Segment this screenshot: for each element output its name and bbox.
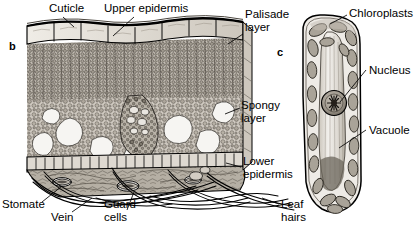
label-chloroplasts: Chloroplasts (349, 7, 413, 20)
label-vein: Vein (51, 211, 73, 224)
label-upper-epidermis: Upper epidermis (104, 2, 188, 15)
label-cuticle: Cuticle (49, 2, 84, 15)
palisade-layer-region (27, 38, 243, 102)
label-vacuole: Vacuole (369, 124, 410, 137)
figure-root: Cuticle Upper epidermis Palisade layer S… (0, 0, 420, 227)
palisade-cell-detail (303, 15, 361, 214)
label-lower-epidermis: Lower epidermis (243, 155, 293, 180)
label-leaf-hairs: Leaf hairs (281, 198, 306, 223)
label-palisade-layer: Palisade layer (245, 8, 289, 33)
leaf-block-right-face (243, 22, 252, 170)
nucleus-region (322, 91, 347, 116)
label-spongy-layer: Spongy layer (241, 99, 280, 124)
label-nucleus: Nucleus (369, 64, 411, 77)
panel-letter-c: c (277, 46, 283, 58)
label-stomate: Stomate (2, 198, 45, 211)
label-guard-cells: Guard cells (104, 198, 136, 223)
leaf-anatomy-illustration (0, 0, 420, 227)
panel-letter-b: b (9, 40, 16, 52)
